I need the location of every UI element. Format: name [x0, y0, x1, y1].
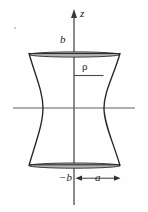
axis-label-z: z: [80, 8, 84, 19]
bottom-cap-band: [29, 163, 120, 168]
top-cap-band: [29, 52, 120, 57]
radius-label-rho: ρ: [82, 61, 88, 72]
right-hyperbola-curve: [104, 54, 120, 166]
hyperboloid-figure: z b ρ −b a: [0, 0, 148, 212]
z-axis-arrowhead-icon: [71, 9, 77, 18]
axis-label-b: b: [60, 34, 66, 45]
figure-canvas: [0, 0, 148, 212]
scan-speck: [14, 27, 16, 29]
dimension-label-a: a: [95, 172, 101, 183]
left-hyperbola-curve: [29, 54, 43, 166]
axis-label-negative-b: −b: [59, 172, 72, 183]
